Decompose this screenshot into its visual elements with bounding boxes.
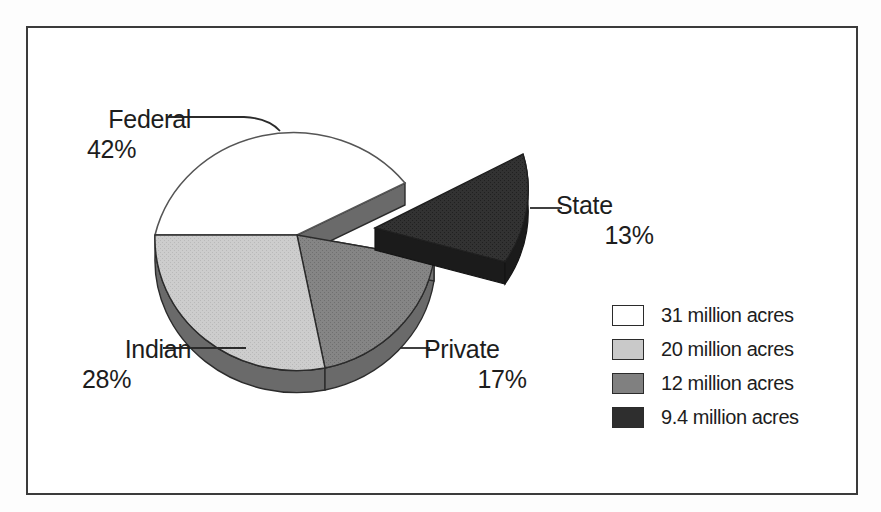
pie-label-private: Private 17%: [424, 334, 574, 394]
pie-label-state-percent: 13%: [556, 220, 696, 250]
legend-item: 9.4 million acres: [612, 402, 842, 433]
pie-label-federal-name: Federal: [46, 104, 191, 134]
pie-label-indian-name: Indian: [36, 334, 191, 364]
legend-item: 12 million acres: [612, 368, 842, 399]
pie-label-federal-percent: 42%: [46, 134, 191, 164]
pie-label-state-name: State: [556, 190, 696, 220]
legend-swatch-icon: [612, 305, 644, 326]
legend-label: 9.4 million acres: [661, 406, 799, 429]
legend-label: 12 million acres: [661, 372, 794, 395]
legend-item: 31 million acres: [612, 300, 842, 331]
legend-label: 20 million acres: [661, 338, 794, 361]
legend-label: 31 million acres: [661, 304, 794, 327]
pie-label-indian: Indian 28%: [36, 334, 191, 394]
pie-label-private-name: Private: [424, 334, 574, 364]
figure-container: Federal 42% Indian 28% Private 17% State…: [0, 0, 881, 512]
pie-label-indian-percent: 28%: [36, 364, 191, 394]
legend-swatch-icon: [612, 373, 644, 394]
pie-label-federal: Federal 42%: [46, 104, 191, 164]
chart-legend: 31 million acres 20 million acres 12 mil…: [612, 300, 842, 436]
legend-swatch-icon: [612, 339, 644, 360]
pie-label-state: State 13%: [556, 190, 696, 250]
pie-label-private-percent: 17%: [424, 364, 574, 394]
legend-swatch-icon: [612, 407, 644, 428]
legend-item: 20 million acres: [612, 334, 842, 365]
